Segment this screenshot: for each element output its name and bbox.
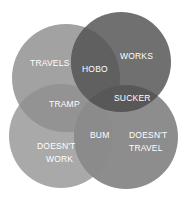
label-works: WORKS [120,51,153,61]
label-hobo: HOBO [82,64,108,74]
label-doesnt-travel-line1: DOESN'T [129,130,167,140]
label-doesnt-work-line1: DOESN'T [37,141,75,151]
label-tramp: TRAMP [49,99,80,109]
venn-diagram: TRAVELS WORKS HOBO SUCKER TRAMP BUM DOES… [0,0,186,198]
label-bum: BUM [90,130,110,140]
label-doesnt-work-line2: WORK [46,154,73,164]
label-travels: TRAVELS [30,58,70,68]
label-doesnt-travel-line2: TRAVEL [129,143,163,153]
label-sucker: SUCKER [114,93,151,103]
